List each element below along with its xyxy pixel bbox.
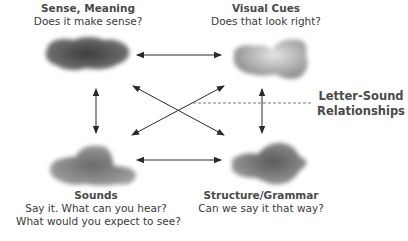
node-question: Can we say it that way? <box>196 202 326 215</box>
node-title: Sounds <box>16 189 176 202</box>
cloud-sense-meaning <box>46 37 130 70</box>
node-sense-meaning-label: Sense, Meaning Does it make sense? <box>28 2 148 28</box>
reading-cues-diagram: Sense, Meaning Does it make sense? Visua… <box>0 0 408 241</box>
node-sounds-label: Sounds Say it. What can you hear? What w… <box>16 189 176 228</box>
node-question: Say it. What can you hear? <box>16 202 176 215</box>
side-label-line2: Relationships <box>314 104 408 119</box>
node-title: Structure/Grammar <box>196 189 326 202</box>
node-question: Does it make sense? <box>28 15 148 28</box>
node-question: Does that look right? <box>206 15 326 28</box>
cloud-visual-cues <box>234 39 308 78</box>
letter-sound-relationships-label: Letter-Sound Relationships <box>314 89 408 119</box>
node-question: What would you expect to see? <box>16 215 176 228</box>
node-structure-grammar-label: Structure/Grammar Can we say it that way… <box>196 189 326 215</box>
node-title: Visual Cues <box>206 2 326 15</box>
side-label-line1: Letter-Sound <box>314 89 408 104</box>
node-visual-cues-label: Visual Cues Does that look right? <box>206 2 326 28</box>
node-title: Sense, Meaning <box>28 2 148 15</box>
cloud-sounds <box>50 145 136 185</box>
cloud-structure-grammar <box>232 143 306 185</box>
